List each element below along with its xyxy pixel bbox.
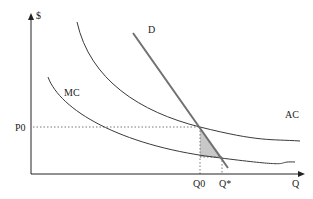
demand-label: D	[148, 24, 155, 35]
average-cost-curve	[77, 22, 300, 141]
mc-label: MC	[64, 87, 80, 98]
marginal-cost-curve	[48, 77, 295, 164]
p0-label: P0	[15, 122, 26, 133]
x-axis-label: Q	[292, 178, 300, 189]
qstar-label: Q*	[219, 178, 231, 189]
demand-curve	[133, 33, 228, 168]
y-axis-label: $	[36, 10, 41, 21]
x-axis-arrow-icon	[298, 171, 305, 177]
y-axis-arrow-icon	[28, 13, 34, 20]
economics-diagram: $ Q D MC AC P0 Q0 Q*	[0, 0, 313, 199]
q0-label: Q0	[193, 178, 205, 189]
ac-label: AC	[285, 109, 299, 120]
